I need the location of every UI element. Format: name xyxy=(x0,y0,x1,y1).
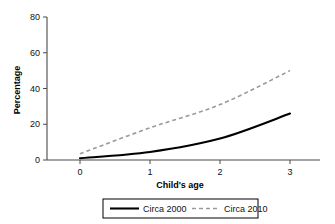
chart-legend: Circa 2000 Circa 2010 xyxy=(103,199,268,218)
line-chart: 0 20 40 60 80 0 1 2 3 Percentage Child's… xyxy=(0,0,335,224)
x-tick-label-0: 0 xyxy=(77,167,82,177)
x-axis-title: Child's age xyxy=(156,180,204,190)
chart-canvas: 0 20 40 60 80 0 1 2 3 Percentage Child's… xyxy=(0,0,335,224)
y-tick-label-80: 80 xyxy=(30,12,40,22)
x-tick-label-2: 2 xyxy=(217,167,222,177)
x-tick-label-1: 1 xyxy=(147,167,152,177)
y-axis-title: Percentage xyxy=(12,66,22,115)
x-tick-label-3: 3 xyxy=(287,167,292,177)
y-tick-label-40: 40 xyxy=(30,84,40,94)
y-tick-label-60: 60 xyxy=(30,48,40,58)
chart-background xyxy=(0,0,335,224)
legend-label-circa-2010: Circa 2010 xyxy=(224,204,268,214)
legend-label-circa-2000: Circa 2000 xyxy=(143,204,187,214)
y-tick-label-0: 0 xyxy=(35,155,40,165)
y-tick-label-20: 20 xyxy=(30,119,40,129)
